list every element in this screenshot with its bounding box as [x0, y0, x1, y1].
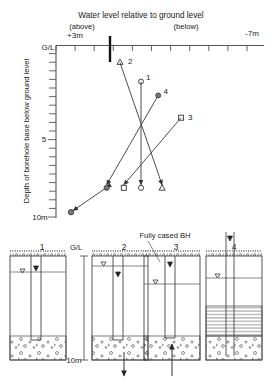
marker-label-3: 3: [188, 113, 193, 122]
depth-scale-bar: G/L 10m: [67, 243, 88, 365]
y-axis-title: Depth of borehole base below ground leve…: [22, 59, 31, 204]
borehole-4-water-table-symbol: [215, 274, 220, 278]
annotation-fully-cased-bh: Fully cased BH: [139, 231, 190, 240]
trajectory-deep-pair: [73, 188, 107, 211]
chart-title: Water level relative to ground level: [78, 11, 203, 20]
borehole-3-inner-water-level: [168, 262, 173, 267]
ground-level-label: G/L: [42, 43, 55, 52]
label-above: (above): [69, 22, 95, 31]
axis-right-end-label: -7m: [245, 29, 259, 38]
borehole-2-inner-water-level: [116, 272, 121, 277]
axis-left-end-label: +3m: [67, 31, 83, 40]
terminal-marker-3-open-square: [121, 185, 126, 190]
trajectory-4: [107, 95, 159, 184]
data-markers-lower: [68, 185, 165, 215]
borehole-diagrams: Fully cased BH G/L 10m 1 2: [10, 231, 262, 376]
scale-top-label: G/L: [70, 243, 82, 252]
borehole-3-water-table-symbol: [153, 280, 158, 284]
y-tick-label-10: 10m: [32, 213, 48, 222]
marker-4-filled-circle: [156, 93, 161, 98]
x-axis-ticks: [56, 46, 247, 52]
borehole-2-ground-surface: [92, 250, 148, 256]
figure-root: Water level relative to ground level (ab…: [0, 0, 272, 385]
borehole-2: 2: [92, 242, 148, 376]
data-markers-upper: 2 1 4 3: [117, 57, 193, 122]
figure-svg: Water level relative to ground level (ab…: [0, 0, 272, 385]
label-below: (below): [174, 22, 199, 31]
trajectory-lines: [73, 63, 181, 211]
borehole-1: 1: [10, 242, 66, 360]
terminal-marker-4-filled-circle: [104, 185, 109, 190]
marker-label-2: 2: [128, 57, 133, 66]
scatter-chart: Water level relative to ground level (ab…: [22, 11, 264, 222]
marker-label-1: 1: [146, 73, 151, 82]
y-axis-ticks: [48, 54, 56, 217]
y-tick-label-5: 5: [42, 135, 47, 144]
borehole-1-ground-surface: [10, 250, 66, 256]
borehole-4-artesian-water-level: [228, 236, 233, 241]
borehole-3: 3: [144, 242, 200, 376]
borehole-1-inner-water-level: [34, 266, 39, 271]
borehole-4: 4: [206, 232, 262, 360]
trajectory-3: [124, 118, 181, 185]
deep-marker-filled-circle: [68, 210, 73, 215]
terminal-marker-2-open-triangle: [159, 185, 165, 191]
borehole-2-water-table-symbol: [101, 262, 106, 266]
marker-label-4: 4: [164, 87, 169, 96]
terminal-marker-1-open-circle: [138, 185, 143, 190]
borehole-3-ground-surface: [144, 250, 200, 256]
scale-bottom-label: 10m: [67, 356, 82, 365]
